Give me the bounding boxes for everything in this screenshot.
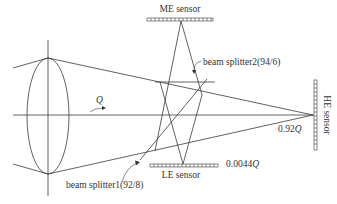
flux-q-arrow-shaft — [90, 108, 103, 112]
beam-splitter2-leader — [194, 61, 201, 70]
converging-ray-bottom — [48, 115, 313, 174]
le-sensor-label: LE sensor — [162, 170, 201, 180]
me-sensor: ME sensor — [147, 4, 213, 21]
le-beam-left — [160, 82, 183, 164]
he-sensor-bar — [314, 80, 317, 150]
le-fraction-label: 0.0044Q — [226, 159, 259, 169]
me-sensor-label: ME sensor — [160, 4, 202, 14]
optical-diagram: ME sensor LE sensor HE sensor beam split… — [0, 0, 337, 204]
he-sensor-pixels — [314, 84, 317, 144]
le-sensor-pixels — [154, 164, 214, 167]
le-sensor-bar — [150, 164, 218, 167]
he-sensor-label: HE sensor — [322, 95, 332, 135]
incoming-ray-top — [13, 58, 48, 68]
beam-splitter2-label: beam splitter2(94/6) — [203, 57, 280, 68]
beam-splitter1-label: beam splitter1(92/8) — [66, 180, 143, 191]
le-beam-right — [183, 95, 202, 164]
he-fraction-label: 0.92Q — [278, 124, 302, 134]
me-beam-right — [181, 21, 202, 95]
me-sensor-pixels — [151, 18, 211, 21]
incoming-ray-bottom — [13, 164, 48, 174]
le-sensor: LE sensor — [150, 164, 218, 180]
beam-splitter1-arrow-icon — [135, 161, 140, 166]
lens — [27, 40, 69, 196]
he-sensor: HE sensor — [314, 80, 332, 150]
flux-q-label: Q — [96, 95, 103, 105]
flux-q-arrow-icon — [102, 106, 106, 110]
beam-splitter1-plate — [140, 79, 207, 160]
